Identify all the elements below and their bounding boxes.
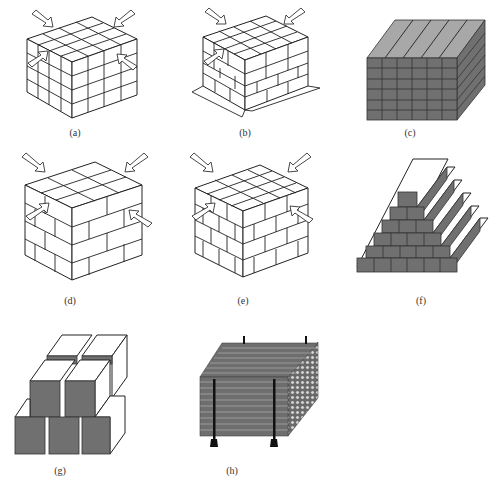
- panel-g: (g): [0, 315, 170, 489]
- panel-caption: (h): [212, 465, 252, 476]
- panel-a: (a): [0, 0, 170, 145]
- panel-caption: (e): [223, 295, 263, 306]
- panel-f: (f): [340, 145, 504, 315]
- panel-c: (c): [340, 0, 504, 145]
- stacked-cubes-diagram: [0, 315, 170, 489]
- panel-b: (b): [170, 0, 340, 145]
- panel-e: (e): [170, 145, 340, 315]
- panel-h: (h): [170, 315, 340, 489]
- block-cube-aligned-diagram: [0, 0, 170, 145]
- block-cube-staggered-dimensioned-diagram: [170, 0, 340, 145]
- tube-bundle-diagram: [170, 315, 340, 489]
- brick-bond-cube-small-diagram: [170, 145, 340, 315]
- panel-d: (d): [0, 145, 170, 315]
- bar-stack-diagram: [340, 0, 504, 145]
- stepped-pyramid-diagram: [340, 145, 504, 315]
- panel-caption: (c): [390, 127, 430, 138]
- panel-caption: (d): [50, 295, 90, 306]
- brick-bond-cube-large-diagram: [0, 145, 170, 315]
- panel-caption: (b): [225, 127, 265, 138]
- panel-caption: (f): [401, 295, 441, 306]
- panel-caption: (a): [55, 127, 95, 138]
- panel-caption: (g): [40, 465, 80, 476]
